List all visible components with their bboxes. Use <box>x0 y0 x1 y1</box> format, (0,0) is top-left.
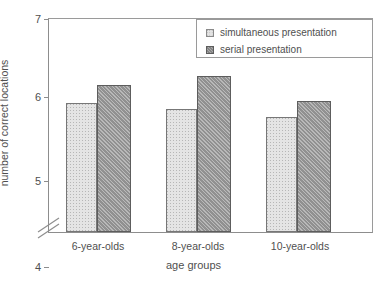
y-tick-label: 6 <box>35 91 41 103</box>
legend-item-serial: serial presentation <box>206 42 372 57</box>
legend-swatch-simultaneous-icon <box>206 29 214 37</box>
y-tick-label: 5 <box>35 175 41 187</box>
x-axis-title: age groups <box>0 259 387 271</box>
x-axis-label-10-year-olds: 10-year-olds <box>271 240 329 252</box>
x-axis-label-8-year-olds: 8-year-olds <box>172 240 225 252</box>
y-tick-mark <box>44 19 49 20</box>
bar-simultaneous-8-year-olds <box>166 109 197 232</box>
y-tick-mark <box>44 181 49 182</box>
legend-item-simultaneous: simultaneous presentation <box>206 25 372 40</box>
y-tick-label: 7 <box>35 13 41 25</box>
bar-serial-8-year-olds <box>197 76 231 232</box>
bar-simultaneous-10-year-olds <box>266 117 297 232</box>
y-axis-title: number of correct locations <box>0 48 10 198</box>
bar-chart: number of correct locations 7 6 5 4 3 0 <box>0 0 387 282</box>
y-tick-mark <box>44 97 49 98</box>
legend: simultaneous presentation serial present… <box>196 19 373 58</box>
bar-simultaneous-6-year-olds <box>66 103 97 232</box>
legend-label: serial presentation <box>220 44 302 55</box>
axis-break-icon <box>37 215 63 241</box>
bar-serial-10-year-olds <box>297 101 331 232</box>
x-axis-label-6-year-olds: 6-year-olds <box>72 240 125 252</box>
legend-label: simultaneous presentation <box>220 27 337 38</box>
bar-serial-6-year-olds <box>97 85 131 232</box>
legend-swatch-serial-icon <box>206 46 214 54</box>
chart-title <box>120 0 290 9</box>
